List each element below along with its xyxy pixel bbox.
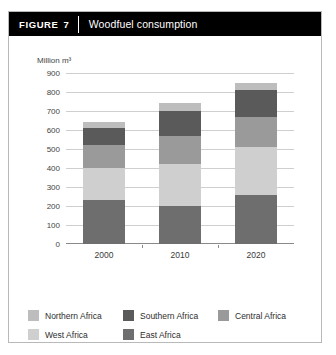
y-axis-tick-label: 700 (47, 107, 60, 116)
bar-segment[interactable] (159, 111, 201, 136)
x-axis-tick-label: 2000 (95, 250, 114, 260)
y-axis-tick-label: 600 (47, 126, 60, 135)
bar-segment[interactable] (235, 90, 277, 117)
legend-item[interactable]: Northern Africa (28, 310, 102, 321)
y-axis-tick-label: 200 (47, 202, 60, 211)
legend-swatch-icon (28, 310, 39, 321)
bar-segment[interactable] (159, 206, 201, 244)
legend-row: Northern AfricaSouthern AfricaCentral Af… (28, 310, 308, 323)
y-axis-tick-label: 400 (47, 164, 60, 173)
gridline (66, 73, 294, 74)
y-axis-tick-label: 800 (47, 88, 60, 97)
bar-segment[interactable] (159, 103, 201, 111)
bar-segment[interactable] (235, 195, 277, 244)
bar-segment[interactable] (235, 147, 277, 195)
figure-label: FIGURE (19, 19, 59, 30)
bar-stack[interactable] (83, 122, 125, 244)
legend-swatch-icon (123, 310, 134, 321)
figure-header: FIGURE 7 Woodfuel consumption (9, 12, 321, 36)
legend-swatch-icon (218, 310, 229, 321)
bar-segment[interactable] (83, 128, 125, 145)
plot-area: 0100200300400500600700800900200020102020 (66, 73, 294, 244)
bar-segment[interactable] (159, 136, 201, 165)
legend-label: Northern Africa (45, 311, 102, 321)
bar-segment[interactable] (83, 168, 125, 200)
legend-label: East Africa (140, 330, 181, 340)
legend-label: Southern Africa (140, 311, 198, 321)
x-axis-tick-label: 2020 (247, 250, 266, 260)
bar-stack[interactable] (159, 103, 201, 244)
legend-swatch-icon (28, 329, 39, 340)
figure-card: FIGURE 7 Woodfuel consumption Million m³… (8, 11, 322, 343)
legend-row: West AfricaEast Africa (28, 329, 308, 342)
y-axis-tick-label: 100 (47, 221, 60, 230)
legend-item[interactable]: Central Africa (218, 310, 286, 321)
y-axis-unit-label: Million m³ (37, 56, 71, 65)
bar-stack[interactable] (235, 83, 277, 244)
figure-number: 7 (64, 19, 69, 30)
figure-tag: FIGURE 7 (9, 12, 78, 36)
x-axis-tick-label: 2010 (171, 250, 190, 260)
legend-label: Central Africa (235, 311, 286, 321)
legend-item[interactable]: Southern Africa (123, 310, 198, 321)
legend-item[interactable]: West Africa (28, 329, 88, 340)
bar-segment[interactable] (235, 117, 277, 147)
y-axis-tick-label: 900 (47, 69, 60, 78)
x-axis-tick (218, 245, 219, 248)
bar-segment[interactable] (83, 200, 125, 244)
legend-item[interactable]: East Africa (123, 329, 181, 340)
y-axis-tick-label: 300 (47, 183, 60, 192)
chart-legend: Northern AfricaSouthern AfricaCentral Af… (28, 310, 308, 348)
chart-body: Million m³ 01002003004005006007008009002… (9, 36, 321, 343)
figure-title: Woodfuel consumption (79, 18, 198, 30)
bar-segment[interactable] (235, 83, 277, 91)
y-axis-tick-label: 0 (56, 240, 60, 249)
legend-swatch-icon (123, 329, 134, 340)
legend-label: West Africa (45, 330, 88, 340)
x-axis-tick (142, 245, 143, 248)
bar-segment[interactable] (159, 164, 201, 206)
bar-segment[interactable] (83, 145, 125, 168)
y-axis-tick-label: 500 (47, 145, 60, 154)
